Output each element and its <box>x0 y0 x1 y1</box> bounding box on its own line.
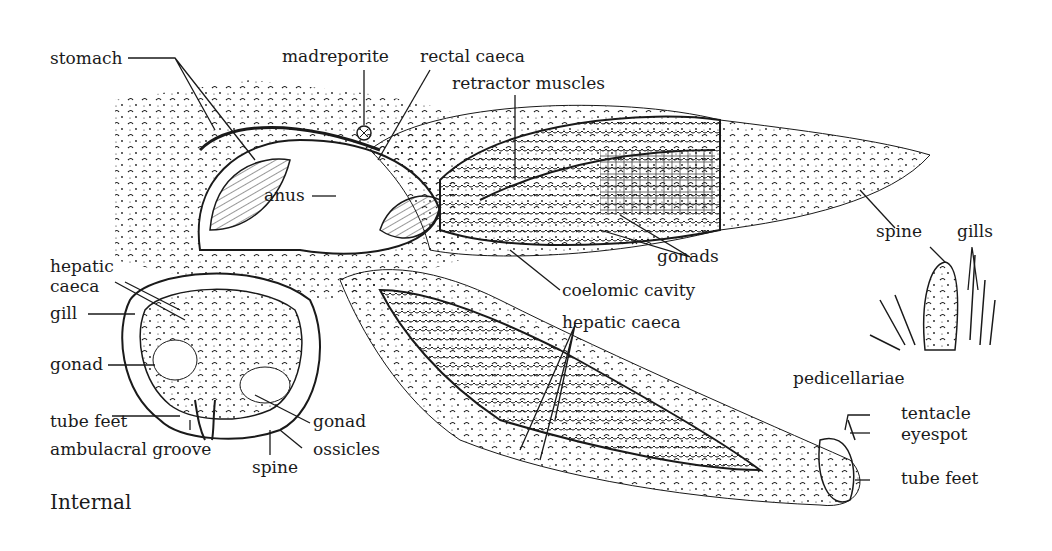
label-gills-detail: gills <box>957 223 993 240</box>
arm-cross-section <box>122 274 320 440</box>
label-ambulacral-groove: ambulacral groove <box>50 441 211 458</box>
label-hepatic-caeca-right: hepatic caeca <box>562 314 681 331</box>
label-tentacle: tentacle <box>901 405 971 422</box>
label-pedicellariae: pedicellariae <box>793 370 905 387</box>
lower-arm <box>340 270 860 506</box>
label-gill: gill <box>50 305 77 322</box>
label-gonads: gonads <box>657 248 719 265</box>
label-tube-feet-left: tube feet <box>50 413 127 430</box>
label-eyespot: eyespot <box>901 426 967 443</box>
spine-gills-detail <box>870 255 995 350</box>
figure-caption: Internal <box>50 492 131 512</box>
label-coelomic-cavity: coelomic cavity <box>562 282 695 299</box>
label-hepatic-caeca-left-1: hepatic <box>50 258 114 275</box>
label-hepatic-caeca-left-2: caeca <box>50 278 99 295</box>
label-retractor-muscles: retractor muscles <box>452 75 605 92</box>
label-ossicles: ossicles <box>313 441 380 458</box>
label-stomach: stomach <box>50 50 123 67</box>
label-madreporite: madreporite <box>282 48 389 65</box>
label-anus: anus <box>264 187 305 204</box>
anatomy-figure: stomach madreporite rectal caeca retract… <box>0 0 1052 551</box>
label-rectal-caeca: rectal caeca <box>420 48 525 65</box>
label-gonad-cross: gonad <box>313 413 366 430</box>
label-spine-detail: spine <box>876 223 922 240</box>
label-gonad-left: gonad <box>50 356 103 373</box>
label-tube-feet-right: tube feet <box>901 470 978 487</box>
label-spine-bottom: spine <box>252 459 298 476</box>
